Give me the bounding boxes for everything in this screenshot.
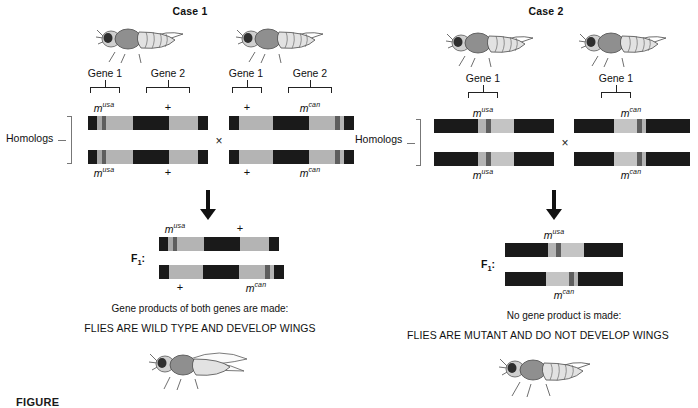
case2-left-top-allele: musa xyxy=(463,106,503,119)
case1-right-gene2-label: Gene 2 xyxy=(282,67,338,79)
case2-result-fly xyxy=(498,350,603,398)
homologs-label-case2: Homologs xyxy=(355,133,402,145)
case2-f1-bottom-allele: mcan xyxy=(544,288,584,301)
homologs-label-case1: Homologs xyxy=(6,132,53,144)
case1-f1-top-left-allele: musa xyxy=(155,222,195,235)
case1-cross-symbol: × xyxy=(211,134,227,148)
case2-result-line2: FLIES ARE MUTANT AND DO NOT DEVELOP WING… xyxy=(378,329,698,341)
case1-result-fly xyxy=(148,345,253,391)
case1-parent-right-top-chromosome xyxy=(229,116,354,130)
chromosome-band xyxy=(106,116,133,130)
chromosome-band xyxy=(478,119,486,133)
chromosome-band xyxy=(514,119,554,133)
case1-f1-bottom-right-allele: mcan xyxy=(236,281,276,294)
chromosome-band xyxy=(548,243,556,257)
case2-parent-left-bottom-chromosome xyxy=(434,152,554,166)
chromosome-band xyxy=(169,116,198,130)
case1-title: Case 1 xyxy=(140,5,240,17)
allele-sup: can xyxy=(629,168,641,175)
case2-parent-right-fly xyxy=(578,26,670,68)
chromosome-band xyxy=(229,116,239,130)
case1-f1-top-chromosome xyxy=(159,237,279,251)
case2-title: Case 2 xyxy=(496,5,596,17)
chromosome-band xyxy=(169,150,198,164)
allele-sup: can xyxy=(308,166,320,173)
chromosome-band xyxy=(177,237,204,251)
case2-f1-bottom-chromosome xyxy=(505,272,623,286)
chromosome-band xyxy=(133,150,169,164)
figure-caption: FIGURE xyxy=(16,396,59,408)
chromosome-band xyxy=(229,150,239,164)
case1-right-top-allele-gene2: mcan xyxy=(290,101,330,114)
chromosome-band xyxy=(169,265,203,279)
allele-sup: usa xyxy=(102,166,114,173)
case1-left-bottom-allele-gene2: + xyxy=(150,166,186,178)
homologs-bracket-case2 xyxy=(415,119,421,166)
case2-right-top-allele: mcan xyxy=(611,106,651,119)
fly-drawing xyxy=(578,26,670,68)
chromosome-band xyxy=(505,272,546,286)
case1-parent-left-bottom-chromosome xyxy=(88,150,208,164)
chromosome-band xyxy=(88,116,97,130)
case2-right-bottom-allele: mcan xyxy=(611,168,651,181)
fly-drawing xyxy=(445,26,537,68)
case1-parent-right-fly xyxy=(235,22,327,64)
case1-right-top-allele-gene1: + xyxy=(229,101,265,113)
case2-cross-symbol: × xyxy=(557,136,573,150)
case1-result-line2: FLIES ARE WILD TYPE AND DEVELOP WINGS xyxy=(40,322,360,334)
chromosome-band xyxy=(574,152,614,166)
case2-parent-left-fly xyxy=(445,26,537,68)
chromosome-band xyxy=(584,243,623,257)
chromosome-band xyxy=(159,265,169,279)
chromosome-band xyxy=(309,150,335,164)
chromosome-band xyxy=(561,243,584,257)
fly-drawing-wingless xyxy=(498,350,603,398)
chromosome-band xyxy=(203,265,239,279)
chromosome-band xyxy=(133,116,169,130)
allele-sup: usa xyxy=(481,168,493,175)
chromosome-band xyxy=(309,116,335,130)
fly-drawing xyxy=(95,22,187,64)
case2-parent-left-top-chromosome xyxy=(434,119,554,133)
case1-left-top-allele-gene2: + xyxy=(150,101,186,113)
chromosome-band xyxy=(198,116,208,130)
case1-parent-right-bottom-chromosome xyxy=(229,150,354,164)
chromosome-band xyxy=(646,119,690,133)
chromosome-band xyxy=(578,272,623,286)
chromosome-band xyxy=(514,152,554,166)
chromosome-band xyxy=(273,150,309,164)
allele-sup: usa xyxy=(102,101,114,108)
chromosome-band xyxy=(204,237,240,251)
f1-colon: : xyxy=(142,252,146,264)
case1-f1-bottom-left-allele: + xyxy=(162,281,198,293)
chromosome-band xyxy=(240,237,269,251)
case2-f1-top-allele: musa xyxy=(534,228,574,241)
case1-left-top-allele-gene1: musa xyxy=(84,101,124,114)
case1-left-bottom-allele-gene1: musa xyxy=(84,166,124,179)
case2-result-line1: No gene product is made: xyxy=(434,310,694,321)
chromosome-band xyxy=(198,150,208,164)
allele-sup: usa xyxy=(552,228,564,235)
chromosome-band xyxy=(646,152,690,166)
case2-left-gene1-label: Gene 1 xyxy=(455,72,511,84)
case1-parent-left-fly xyxy=(95,22,187,64)
allele-sup: can xyxy=(308,101,320,108)
chromosome-band xyxy=(239,150,273,164)
chromosome-band xyxy=(478,152,486,166)
case2-f1-label: F1: xyxy=(481,258,495,273)
chromosome-band xyxy=(159,237,168,251)
case2-f1-top-chromosome xyxy=(505,243,623,257)
fly-drawing-winged xyxy=(148,345,253,391)
allele-sup: can xyxy=(562,288,574,295)
homologs-bracket-case1 xyxy=(66,116,72,164)
chromosome-band xyxy=(614,119,637,133)
case1-f1-top-right-allele: + xyxy=(222,222,258,234)
chromosome-band xyxy=(239,116,273,130)
case2-parent-right-top-chromosome xyxy=(574,119,690,133)
chromosome-band xyxy=(106,150,133,164)
case1-right-gene1-label: Gene 1 xyxy=(218,67,274,79)
case2-left-bottom-allele: musa xyxy=(463,168,503,181)
f1-colon: : xyxy=(492,258,496,270)
chromosome-band xyxy=(505,243,548,257)
case1-left-gene1-label: Gene 1 xyxy=(77,67,133,79)
